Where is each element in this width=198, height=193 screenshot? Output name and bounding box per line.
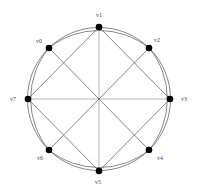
label-v0: v0 xyxy=(36,38,42,44)
node-v6 xyxy=(46,147,53,154)
label-v4: v4 xyxy=(157,155,163,161)
label-v2: v2 xyxy=(154,37,160,43)
node-v5 xyxy=(96,168,103,175)
label-v3: v3 xyxy=(181,96,187,102)
node-v3 xyxy=(167,96,174,103)
label-v6: v6 xyxy=(37,155,43,161)
node-v0 xyxy=(46,45,53,52)
label-v5: v5 xyxy=(95,179,101,185)
label-v1: v1 xyxy=(96,12,102,18)
node-v7 xyxy=(25,96,32,103)
node-v1 xyxy=(96,24,103,31)
node-v2 xyxy=(146,45,153,52)
node-v4 xyxy=(146,147,153,154)
label-v7: v7 xyxy=(10,96,16,102)
graph-diagram: v0 v1 v2 v3 v4 v5 v6 v7 xyxy=(0,0,198,193)
